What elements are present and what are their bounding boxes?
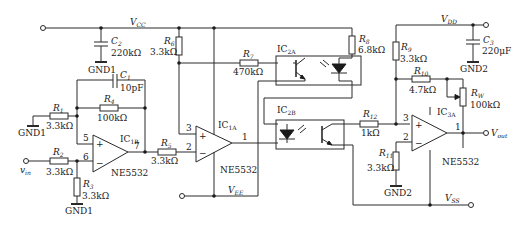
r4-value: 100kΩ <box>97 113 127 123</box>
gnd2-r11-label: GND2 <box>384 188 412 198</box>
r2-label: R2 <box>52 147 64 158</box>
gnd1-r3-label: GND1 <box>65 206 93 216</box>
vout-terminal[interactable] <box>484 131 489 136</box>
r11-value: 3.3kΩ <box>367 163 394 173</box>
vdd-rail: VDD C3 220μF GND2 <box>396 14 511 74</box>
r2-value: 3.3kΩ <box>46 167 73 177</box>
ic2b-label: IC2B <box>277 105 296 116</box>
resistor-r1: R1 3.3kΩ GND1 <box>18 103 79 138</box>
ic3a-label: IC3A <box>437 107 456 118</box>
vcc-label: VCC <box>130 17 146 28</box>
vin-label: vin <box>20 165 31 176</box>
r8-label: R8 <box>358 34 370 45</box>
svg-text:−: − <box>199 148 207 158</box>
r3-value: 3.3kΩ <box>82 191 109 201</box>
svg-text:3: 3 <box>186 123 192 133</box>
ic3a-part: NE5532 <box>442 157 479 167</box>
r12-value: 1kΩ <box>361 128 380 138</box>
r12-label: R12 <box>362 109 378 120</box>
vdd-label: VDD <box>441 14 457 25</box>
gnd1-label: GND1 <box>88 65 116 75</box>
vss-terminal[interactable] <box>469 203 474 208</box>
resistor-r6: R6 3.3kΩ <box>150 28 182 134</box>
capacitor-c2: C2 220kΩ GND1 <box>88 28 141 75</box>
svg-text:−: − <box>415 138 423 148</box>
svg-text:2: 2 <box>403 132 409 142</box>
svg-text:1: 1 <box>242 132 248 142</box>
r9-label: R9 <box>400 42 412 53</box>
rw-label: RW <box>470 88 485 99</box>
svg-text:+: + <box>96 139 104 149</box>
ic1a-label: IC1A <box>218 120 237 131</box>
r11-label: R11 <box>378 148 393 159</box>
r5-value: 3.3kΩ <box>151 156 178 166</box>
resistor-r10: R10 4.7kΩ <box>396 66 463 95</box>
vcc-terminal[interactable] <box>41 26 46 31</box>
svg-text:5: 5 <box>83 133 89 143</box>
r3-label: R3 <box>82 179 94 190</box>
opamp-ic1b: + − 5 6 7 IC1B NE5532 <box>77 133 158 178</box>
r6-label: R6 <box>163 36 175 47</box>
gnd1-r1-label: GND1 <box>18 128 46 138</box>
r9-value: 3.3kΩ <box>400 54 427 64</box>
opamp-ic1a: + − 3 2 1 IC1A NE5532 VEE <box>179 28 278 199</box>
c3-label: C3 <box>483 35 494 46</box>
c2-label: C2 <box>111 36 122 47</box>
vee-terminal[interactable] <box>180 194 185 199</box>
vdd-terminal[interactable] <box>484 23 489 28</box>
optocoupler-ic2b: IC2B <box>264 98 360 205</box>
vin-terminal[interactable] <box>24 159 29 164</box>
c1-label: C1 <box>120 70 131 81</box>
ic2a-label: IC2A <box>277 44 296 55</box>
r5-label: R5 <box>160 138 172 149</box>
c3-value: 220μF <box>482 46 511 56</box>
ic1a-part: NE5532 <box>220 165 257 175</box>
vee-label: VEE <box>228 185 244 196</box>
vcc-rail: VCC <box>41 17 353 31</box>
svg-text:−: − <box>96 158 104 168</box>
svg-text:2: 2 <box>186 142 192 152</box>
resistor-r7: R7 470kΩ <box>179 49 278 77</box>
r10-value: 4.7kΩ <box>409 85 436 95</box>
svg-text:+: + <box>199 131 207 141</box>
c1-value: 10pF <box>120 83 143 93</box>
resistor-r8: R8 6.8kΩ <box>349 28 385 58</box>
gnd2-c3-label: GND2 <box>460 64 488 74</box>
r1-label: R1 <box>52 103 64 114</box>
r8-value: 6.8kΩ <box>358 45 385 55</box>
svg-text:1: 1 <box>455 122 461 132</box>
rw-value: 100kΩ <box>470 100 500 110</box>
vss-label: VSS <box>445 193 460 204</box>
c2-value: 220kΩ <box>111 48 141 58</box>
r7-value: 470kΩ <box>233 67 263 77</box>
r4-label: R4 <box>103 94 115 105</box>
svg-text:3: 3 <box>403 113 409 123</box>
r10-label: R10 <box>413 66 429 77</box>
vout-label: Vout <box>491 128 508 139</box>
r6-value: 3.3kΩ <box>150 47 177 57</box>
ic1b-part: NE5532 <box>111 168 148 178</box>
circuit-schematic: VCC C2 220kΩ GND1 C1 10pF R4 100kΩ <box>0 0 523 229</box>
svg-text:+: + <box>415 120 423 130</box>
r1-value: 3.3kΩ <box>46 121 73 131</box>
r7-label: R7 <box>242 49 254 60</box>
ic1b-label: IC1B <box>120 134 139 145</box>
optocoupler-ic2a: IC2A <box>258 44 361 98</box>
